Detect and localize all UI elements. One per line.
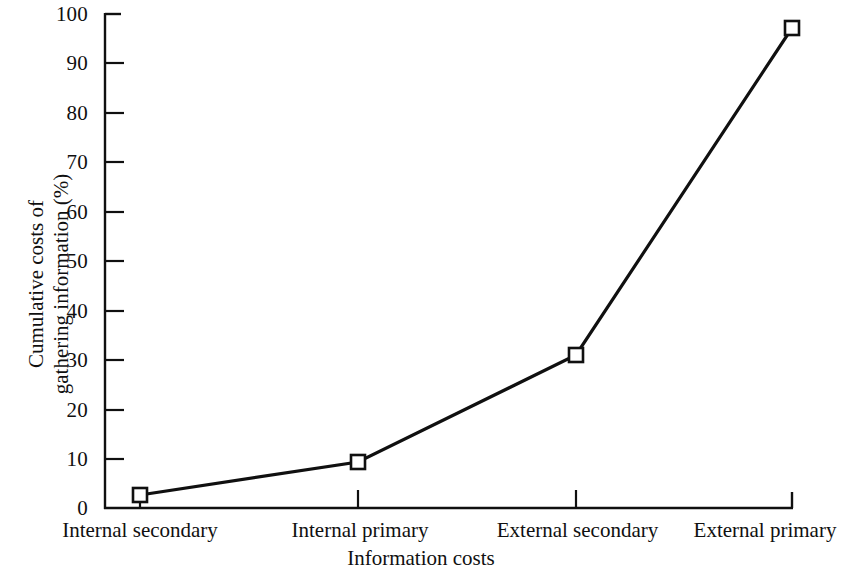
- x-tick-label-internal-primary: Internal primary: [265, 518, 455, 542]
- data-point-external-secondary: [569, 348, 583, 362]
- x-axis-title: Information costs: [0, 546, 842, 570]
- y-axis-ticks: [105, 63, 124, 459]
- x-tick-label-external-secondary: External secondary: [470, 518, 685, 542]
- data-line-series-1: [140, 28, 792, 495]
- data-point-internal-secondary: [133, 488, 147, 502]
- x-axis-ticks: [140, 490, 576, 508]
- axis-lines: [104, 13, 793, 509]
- data-markers: [133, 21, 799, 502]
- x-tick-label-internal-secondary: Internal secondary: [35, 518, 245, 542]
- chart-figure: Cumulative costs of gathering informatio…: [0, 0, 842, 582]
- data-point-internal-primary: [351, 455, 365, 469]
- x-tick-label-external-primary: External primary: [688, 518, 842, 542]
- data-point-external-primary: [785, 21, 799, 35]
- plot-area: [0, 0, 842, 582]
